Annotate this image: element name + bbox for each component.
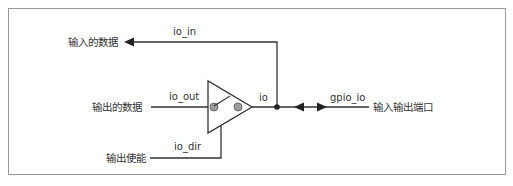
label-output-enable: 输出使能 [106, 152, 146, 164]
signal-gpio-io: gpio_io [330, 92, 366, 104]
label-io-port: 输入输出端口 [373, 101, 433, 113]
signal-io-out: io_out [169, 91, 199, 103]
label-output-data: 输出的数据 [92, 101, 142, 113]
arrow-left-icon [124, 38, 134, 47]
arrow-right-icon [317, 103, 327, 112]
label-input-data: 输入的数据 [68, 36, 118, 48]
diagram-canvas [0, 0, 513, 186]
arrow-left-icon [294, 103, 304, 112]
signal-io-in: io_in [173, 26, 196, 38]
tristate-buffer-icon [208, 81, 252, 133]
signal-io-dir: io_dir [174, 141, 201, 153]
io-in-wire [124, 38, 277, 108]
signal-io: io [259, 92, 268, 104]
junction-dot-icon [274, 104, 280, 110]
